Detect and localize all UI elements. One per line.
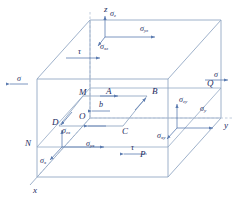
sigma-yz-label: σyz — [140, 25, 148, 34]
sigma-x-sub: x — [44, 160, 46, 165]
axis-lines — [30, 10, 232, 185]
stress-arrows-left — [50, 130, 104, 160]
point-Q-label: Q — [207, 79, 214, 88]
point-A-label: A — [106, 87, 112, 96]
z-axis-label: z — [104, 5, 108, 14]
sigma-x-label: σx — [40, 157, 46, 166]
point-M-label: M — [79, 88, 87, 97]
applied-tau-bottom-label: τ — [131, 144, 134, 152]
point-C-label: C — [122, 127, 128, 136]
point-O-label: O — [79, 112, 86, 121]
sigma-y-label: σy — [200, 105, 206, 114]
sigma-xy-label: σxy — [157, 132, 165, 141]
sigma-yz-sub: yz — [144, 28, 148, 33]
sigma-yx-label: σyx — [86, 140, 94, 149]
point-D-label: D — [52, 118, 59, 127]
point-N-label: N — [25, 139, 31, 148]
sigma-z-sub: z — [114, 13, 116, 18]
applied-sigma-left-label: σ — [17, 75, 21, 83]
point-P-label: P — [140, 150, 146, 159]
applied-tau-top-label: τ — [78, 48, 81, 56]
sigma-yx-sub: yx — [90, 143, 94, 148]
sigma-zx-sub: zx — [66, 130, 70, 135]
figure-canvas — [0, 0, 240, 208]
burgers-vector-label: b — [99, 101, 103, 109]
sigma-xy-sub: xy — [161, 135, 165, 140]
sigma-zx-label: σzx — [62, 127, 70, 136]
sigma-xz-sub: xz — [104, 46, 108, 51]
stress-element-figure: z y x M N P Q A B C D O b σz σyz σxz σy … — [0, 0, 240, 208]
sigma-zy-label: σzy — [179, 96, 187, 105]
sigma-zy-sub: zy — [183, 99, 187, 104]
sigma-z-label: σz — [110, 10, 116, 19]
box-solid-edges — [37, 20, 221, 177]
sigma-y-sub: y — [204, 108, 206, 113]
x-axis-label: x — [33, 186, 37, 195]
applied-sigma-right-label: σ — [214, 71, 218, 79]
box-hidden-edges — [37, 20, 90, 177]
sigma-xz-label: σxz — [100, 43, 108, 52]
mid-section-plane — [37, 88, 221, 147]
point-B-label: B — [152, 87, 158, 96]
y-axis-label: y — [224, 121, 228, 130]
